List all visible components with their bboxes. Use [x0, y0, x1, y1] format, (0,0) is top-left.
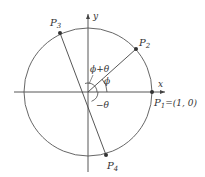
chord-p3-p4	[60, 33, 106, 155]
point-p3	[58, 31, 62, 35]
point-p4	[104, 153, 108, 157]
y-axis-arrow-icon	[86, 14, 90, 19]
label-phi: ϕ	[104, 76, 110, 86]
angle-pointer	[89, 75, 93, 84]
x-axis-arrow-icon	[160, 90, 165, 94]
x-axis-label: x	[158, 79, 163, 89]
label-p1: P1=(1, 0)	[153, 97, 197, 110]
label-phi-plus-theta: ϕ+θ	[90, 64, 110, 74]
label-p2: P2	[138, 37, 151, 50]
point-p1	[150, 90, 154, 94]
y-axis-label: y	[92, 11, 99, 21]
label-p4: P4	[106, 160, 118, 173]
label-minus-theta: −θ	[96, 100, 110, 110]
point-p2	[134, 47, 138, 51]
unit-circle-diagram: x y P1=(1, 0) P2 P3 P4 ϕ ϕ+θ −θ	[0, 0, 205, 177]
arc-phi-plus-theta	[85, 83, 97, 92]
label-p3: P3	[49, 17, 62, 30]
